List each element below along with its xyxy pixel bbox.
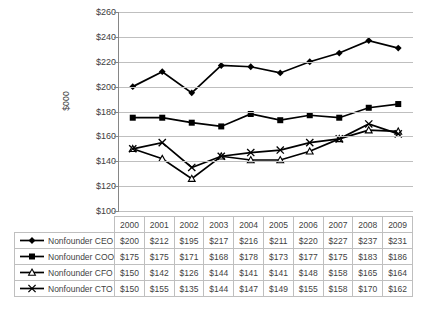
table-cell-value: $211 (264, 233, 294, 249)
gridline (118, 136, 413, 137)
table-cell-value: $155 (144, 281, 174, 297)
y-tick-label: $220 (74, 58, 116, 67)
diamond-marker (365, 37, 372, 44)
table-cell-value: $170 (353, 281, 383, 297)
column-header-year: 2005 (264, 217, 294, 233)
table-cell-value: $175 (323, 249, 353, 265)
y-tick-label: $100 (74, 207, 116, 216)
square-marker (159, 115, 165, 121)
square-marker (130, 115, 136, 121)
table-cell-value: $141 (264, 265, 294, 281)
column-header-year: 2004 (234, 217, 264, 233)
table-cell-value: $141 (234, 265, 264, 281)
square-marker (395, 101, 401, 107)
table-cell-value: $183 (353, 249, 383, 265)
legend-label: Nonfounder CTO Salary (48, 284, 115, 294)
legend-marker-icon (19, 283, 45, 294)
table-body: 2000200120022003200420052006200720082009… (15, 217, 413, 297)
gridline (118, 87, 413, 88)
y-axis-tick-labels: $260$240$220$200$180$160$140$120$100 (68, 0, 116, 222)
column-header-year: 2002 (174, 217, 204, 233)
legend-marker-icon (19, 235, 45, 246)
gridline (118, 12, 413, 13)
table-header-row: 2000200120022003200420052006200720082009 (15, 217, 413, 233)
table-cell-value: $147 (234, 281, 264, 297)
legend-label: Nonfounder CEO Salary (48, 236, 115, 246)
table-row: Nonfounder COO Salary$175$175$171$168$17… (15, 249, 413, 265)
column-header-year: 2006 (293, 217, 323, 233)
gridline (118, 211, 413, 212)
square-marker (189, 120, 195, 126)
legend-key-triangle (19, 267, 45, 278)
square-marker (366, 105, 372, 111)
table-cell-value: $142 (144, 265, 174, 281)
legend-marker-icon (19, 251, 45, 262)
y-tick-label: $160 (74, 132, 116, 141)
legend-item-cross[interactable]: Nonfounder CTO Salary (15, 281, 115, 297)
table-cell-value: $217 (204, 233, 234, 249)
diamond-marker (395, 45, 402, 52)
data-table: 2000200120022003200420052006200720082009… (14, 216, 413, 297)
column-header-year: 2007 (323, 217, 353, 233)
table-cell-value: $200 (115, 233, 145, 249)
table-cell-value: $144 (204, 281, 234, 297)
diamond-marker (247, 63, 254, 70)
table-row: Nonfounder CEO Salary$200$212$195$217$21… (15, 233, 413, 249)
table-cell-value: $149 (264, 281, 294, 297)
legend-label: Nonfounder COO Salary (48, 252, 115, 262)
table-cell-value: $148 (293, 265, 323, 281)
square-marker (29, 254, 35, 260)
table-cell-value: $162 (383, 281, 413, 297)
table-cell-value: $227 (323, 233, 353, 249)
legend-item-triangle[interactable]: Nonfounder CFO Salary (15, 265, 115, 281)
table-cell-value: $155 (293, 281, 323, 297)
table-cell-value: $150 (115, 265, 145, 281)
legend-marker-icon (19, 267, 45, 278)
cross-marker (188, 164, 195, 171)
diamond-marker (277, 70, 284, 77)
table-cell-value: $168 (204, 249, 234, 265)
y-axis-line (118, 12, 119, 212)
table-cell-value: $173 (264, 249, 294, 265)
gridline (118, 161, 413, 162)
series-line (133, 41, 399, 93)
column-header-year: 2008 (353, 217, 383, 233)
column-header-year: 2001 (144, 217, 174, 233)
legend-label: Nonfounder CFO Salary (48, 268, 115, 278)
series-line (133, 130, 399, 179)
diamond-marker (336, 50, 343, 57)
legend-item-diamond[interactable]: Nonfounder CEO Salary (15, 233, 115, 249)
table-cell-value: $175 (115, 249, 145, 265)
table-cell-value: $150 (115, 281, 145, 297)
table-cell-value: $212 (144, 233, 174, 249)
column-header-year: 2003 (204, 217, 234, 233)
y-tick-label: $120 (74, 182, 116, 191)
y-tick-label: $140 (74, 157, 116, 166)
table-cell-value: $126 (174, 265, 204, 281)
legend-key-diamond (19, 235, 45, 246)
table-cell-value: $220 (293, 233, 323, 249)
y-tick-label: $200 (74, 83, 116, 92)
column-header-year: 2009 (383, 217, 413, 233)
table-cell-value: $195 (174, 233, 204, 249)
table-cell-value: $186 (383, 249, 413, 265)
table-cell-value: $158 (323, 265, 353, 281)
series-value-table: 2000200120022003200420052006200720082009… (14, 216, 413, 297)
square-marker (218, 123, 224, 129)
plot-region: $000 $260$240$220$200$180$160$140$120$10… (0, 0, 425, 222)
table-cell-value: $144 (204, 265, 234, 281)
table-cell-value: $164 (383, 265, 413, 281)
gridline (118, 62, 413, 63)
y-tick-label: $240 (74, 33, 116, 42)
table-cell-value: $216 (234, 233, 264, 249)
table-cell-value: $158 (323, 281, 353, 297)
square-marker (336, 115, 342, 121)
legend-key-square (19, 251, 45, 262)
gridline (118, 186, 413, 187)
gridline (118, 112, 413, 113)
table-cell-value: $178 (234, 249, 264, 265)
y-tick-label: $180 (74, 108, 116, 117)
legend-item-square[interactable]: Nonfounder COO Salary (15, 249, 115, 265)
table-cell-value: $175 (144, 249, 174, 265)
square-marker (277, 117, 283, 123)
